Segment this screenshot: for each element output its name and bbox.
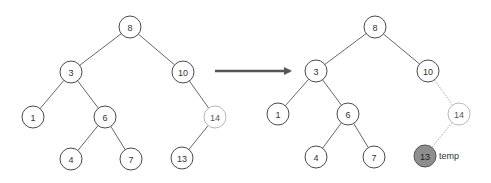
node-label: 3 (313, 67, 318, 77)
node-label: 10 (423, 67, 433, 77)
node-label: 8 (127, 23, 132, 33)
after-node-14: 14 (448, 103, 470, 125)
before-tree-edges (40, 34, 209, 151)
node-label: 3 (68, 68, 73, 78)
bst-diagram: 831016144713 831016144713 temp (0, 0, 491, 183)
before-edge-8-10 (138, 34, 174, 65)
before-node-8: 8 (119, 16, 141, 38)
before-edge-3-1 (40, 80, 64, 108)
after-edge-3-6 (323, 80, 342, 105)
after-tree-edges (285, 34, 452, 149)
before-node-10: 10 (172, 61, 194, 83)
node-label: 14 (454, 110, 464, 120)
after-node-7: 7 (363, 146, 385, 168)
before-node-3: 3 (60, 61, 82, 83)
node-label: 10 (178, 68, 188, 78)
node-label: 14 (210, 113, 220, 123)
after-edge-10-14 (434, 80, 452, 105)
before-edge-8-3 (80, 34, 122, 66)
after-node-1: 1 (267, 103, 289, 125)
before-node-13: 13 (171, 147, 193, 169)
before-edge-6-4 (78, 126, 98, 151)
before-node-6: 6 (94, 106, 116, 128)
after-edge-6-7 (354, 123, 369, 147)
annotations: temp (439, 151, 459, 161)
node-label: 7 (371, 153, 376, 163)
before-edge-14-13 (189, 126, 208, 150)
after-edge-8-10 (383, 34, 419, 64)
temp-label: temp (439, 151, 459, 161)
before-node-7: 7 (120, 148, 142, 170)
before-edge-6-7 (111, 126, 125, 149)
before-edge-10-14 (189, 81, 208, 108)
before-node-14: 14 (204, 106, 226, 128)
before-edge-3-6 (78, 81, 99, 108)
after-node-8: 8 (364, 16, 386, 38)
after-edge-14-13 (432, 123, 452, 148)
node-label: 4 (313, 153, 318, 163)
node-label: 1 (275, 110, 280, 120)
node-label: 6 (102, 113, 107, 123)
node-label: 13 (420, 152, 430, 162)
after-edge-3-1 (285, 79, 308, 106)
before-node-4: 4 (60, 148, 82, 170)
after-node-3: 3 (305, 60, 327, 82)
node-label: 7 (128, 155, 133, 165)
after-node-6: 6 (337, 103, 359, 125)
after-edge-6-4 (323, 123, 342, 148)
after-edge-8-3 (325, 34, 366, 65)
after-node-4: 4 (305, 146, 327, 168)
before-node-1: 1 (22, 106, 44, 128)
after-node-10: 10 (417, 60, 439, 82)
node-label: 6 (345, 110, 350, 120)
node-label: 13 (177, 154, 187, 164)
node-label: 1 (30, 113, 35, 123)
node-label: 8 (372, 23, 377, 33)
after-node-13: 13 (414, 145, 436, 167)
node-label: 4 (68, 155, 73, 165)
